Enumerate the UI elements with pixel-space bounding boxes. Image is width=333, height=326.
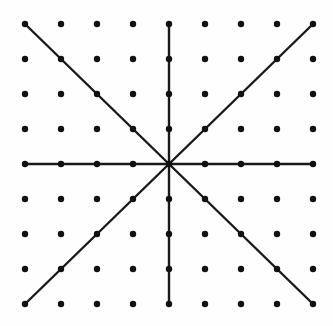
lattice-dot: [58, 266, 64, 272]
lattice-dot: [310, 231, 316, 237]
lattice-dot: [94, 126, 100, 132]
lattice-dot: [58, 161, 64, 167]
lattice-dot: [238, 91, 244, 97]
lattice-dot: [238, 301, 244, 307]
lattice-dot: [22, 196, 28, 202]
lattice-dot: [238, 231, 244, 237]
lattice-dot: [202, 301, 208, 307]
lattice-dot: [310, 266, 316, 272]
lattice-dot: [94, 21, 100, 27]
lattice-dot: [310, 126, 316, 132]
lattice-dot: [130, 21, 136, 27]
lattice-dot: [22, 231, 28, 237]
lattice-dot: [22, 161, 28, 167]
lattice-dot: [202, 21, 208, 27]
lattice-dot: [274, 196, 280, 202]
lattice-dot: [94, 91, 100, 97]
lattice-dot: [94, 161, 100, 167]
lattice-dot: [130, 231, 136, 237]
lattice-dot: [22, 56, 28, 62]
lattice-dot: [274, 21, 280, 27]
lattice-dot: [238, 266, 244, 272]
lattice-dot: [58, 56, 64, 62]
lattice-dot: [274, 91, 280, 97]
figure-container: [0, 0, 333, 326]
lattice-dot: [238, 56, 244, 62]
lattice-dot: [22, 301, 28, 307]
lattice-dot: [202, 161, 208, 167]
lattice-dot: [238, 126, 244, 132]
lattice-dot: [166, 266, 172, 272]
lattice-dot: [166, 91, 172, 97]
lattice-dot: [94, 266, 100, 272]
lattice-dot: [22, 91, 28, 97]
lattice-dot: [130, 266, 136, 272]
lattice-dot: [310, 21, 316, 27]
lattice-dot: [166, 196, 172, 202]
lattice-dot: [310, 301, 316, 307]
lattice-dot: [274, 56, 280, 62]
lattice-dot: [94, 56, 100, 62]
lattice-dot: [94, 196, 100, 202]
lattice-dot: [58, 196, 64, 202]
lattice-dot: [274, 126, 280, 132]
lattice-dot: [166, 126, 172, 132]
lattice-dot: [130, 126, 136, 132]
lattice-dot: [202, 56, 208, 62]
lattice-dot: [22, 266, 28, 272]
lattice-dot: [130, 91, 136, 97]
lattice-dot: [238, 161, 244, 167]
lattice-dot: [202, 266, 208, 272]
lattice-dot: [166, 21, 172, 27]
lattice-dot: [94, 231, 100, 237]
lattice-dot: [166, 56, 172, 62]
lattice-dot: [94, 301, 100, 307]
lattice-dot: [166, 161, 172, 167]
lattice-dot: [166, 231, 172, 237]
lattice-dot: [130, 301, 136, 307]
lattice-dot: [310, 56, 316, 62]
lattice-dot: [58, 301, 64, 307]
lattice-dot: [202, 231, 208, 237]
lattice-dot: [22, 21, 28, 27]
lattice-dot: [166, 301, 172, 307]
lattice-dot: [274, 161, 280, 167]
lattice-dot: [202, 196, 208, 202]
lattice-dot: [58, 231, 64, 237]
lattice-dot: [202, 126, 208, 132]
lattice-dot: [274, 231, 280, 237]
lattice-dot: [130, 196, 136, 202]
lattice-dot: [202, 91, 208, 97]
lattice-dot: [310, 196, 316, 202]
lattice-dot: [310, 91, 316, 97]
lattice-dot: [22, 126, 28, 132]
lattice-dot: [58, 21, 64, 27]
lattice-dot: [58, 126, 64, 132]
lattice-dot: [130, 161, 136, 167]
lattice-dot: [274, 301, 280, 307]
dot-lattice-figure: [0, 0, 333, 326]
lattice-dot: [274, 266, 280, 272]
lattice-dot: [58, 91, 64, 97]
lattice-dot: [310, 161, 316, 167]
lattice-dot: [130, 56, 136, 62]
lattice-dot: [238, 196, 244, 202]
lattice-dot: [238, 21, 244, 27]
